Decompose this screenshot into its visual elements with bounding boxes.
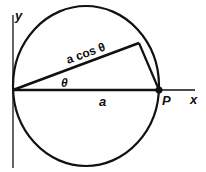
radius-label: a (99, 94, 106, 109)
circle (13, 6, 159, 166)
polar-circle-diagram: y x P a cos θ θ a (0, 0, 206, 172)
x-axis-label: x (189, 92, 198, 107)
y-axis-label: y (14, 8, 23, 23)
angle-label: θ (61, 76, 68, 90)
point-p-label: P (162, 93, 171, 108)
